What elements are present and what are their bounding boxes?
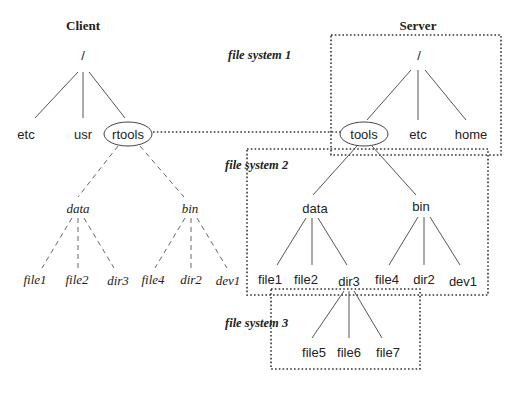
server-node-dev1: dev1 [449,274,477,289]
edge-server-tools-data [313,146,357,195]
edge-server-root-tools [367,70,411,120]
server-node-etc: etc [409,127,427,142]
client-root-node: / [81,48,85,63]
client-node-file4: file4 [141,272,165,287]
edge-client-data-dir3 [84,218,114,268]
server-node-file7: file7 [376,345,400,360]
client-node-file1: file1 [23,272,46,287]
edge-client-bin-dev1 [197,218,227,268]
server-node-file4: file4 [375,272,399,287]
edge-client-bin-file4 [155,218,185,268]
client-node-dir2: dir2 [180,272,202,287]
server-root-node: / [417,48,421,63]
server-node-bin: bin [412,199,429,214]
file-system-3-label: file system 3 [225,316,288,330]
server-node-data: data [302,201,328,216]
edge-server-tools-bin [372,146,416,195]
server-node-home: home [455,127,488,142]
server-heading: Server [400,18,437,33]
edge-server-bin-dev1 [430,217,460,265]
server-node-file1: file1 [258,272,282,287]
edge-server-data-file1 [277,218,306,265]
server-node-dir3: dir3 [338,274,360,289]
edge-server-dir3-file7 [354,291,382,338]
edge-server-dir3-file5 [312,291,344,338]
client-tree: Client / etc usr rtools data bin file1 f… [17,18,240,288]
edge-client-rtools-bin [140,146,184,197]
edge-client-root-rtools [89,72,125,118]
client-node-dev1: dev1 [216,273,241,288]
file-system-2-label: file system 2 [225,158,288,172]
server-tree: Server file system 1 / tools etc home fi… [225,18,501,369]
client-node-data: data [66,201,90,216]
edge-server-bin-file4 [389,217,418,265]
file-system-1-label: file system 1 [228,48,291,62]
edge-client-rtools-data [78,146,118,197]
client-node-dir3: dir3 [107,273,129,288]
client-node-rtools: rtools [112,127,144,142]
server-node-dir2: dir2 [413,272,435,287]
client-heading: Client [66,18,101,33]
client-node-etc: etc [17,127,35,142]
server-node-file2: file2 [294,272,318,287]
server-node-file6: file6 [337,345,361,360]
server-node-file5: file5 [302,345,326,360]
client-node-usr: usr [74,127,93,142]
edge-client-root-etc [35,72,78,118]
client-node-file2: file2 [65,272,89,287]
edge-server-data-dir3 [318,218,347,265]
client-node-bin: bin [182,201,199,216]
server-node-tools: tools [350,127,378,142]
edge-client-data-file1 [42,218,72,268]
edge-server-root-home [425,70,466,120]
nfs-mount-diagram: Client / etc usr rtools data bin file1 f… [0,0,515,396]
